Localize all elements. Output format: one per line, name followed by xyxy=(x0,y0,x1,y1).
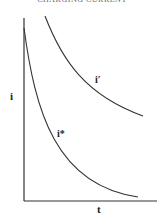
upper-curve-label: i′ xyxy=(95,74,101,85)
x-axis-label: t xyxy=(97,203,101,215)
lower-curve xyxy=(24,28,138,197)
lower-curve-label: i* xyxy=(57,128,65,139)
y-axis-label: i xyxy=(10,90,13,102)
upper-curve xyxy=(45,16,143,116)
current-decay-diagram xyxy=(0,0,164,220)
